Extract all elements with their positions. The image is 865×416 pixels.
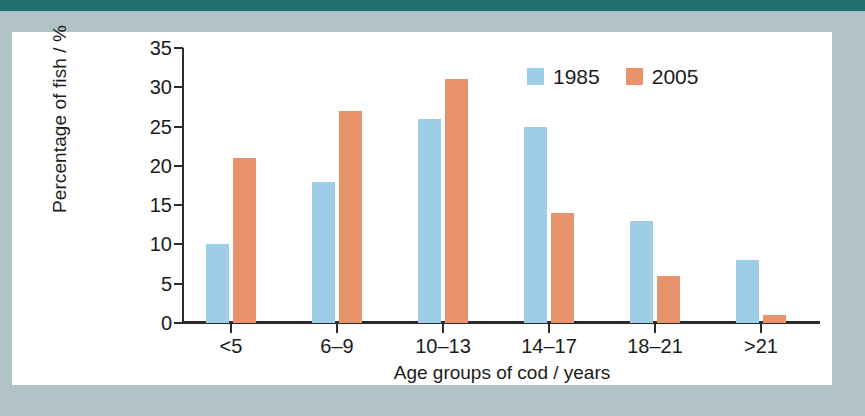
bar <box>206 244 229 323</box>
bar <box>551 213 574 323</box>
bar <box>524 127 547 323</box>
legend-entry: 2005 <box>626 66 699 87</box>
x-axis-tick-mark <box>654 324 656 333</box>
bar <box>657 276 680 323</box>
legend-entry: 1985 <box>527 66 600 87</box>
legend-color-swatch <box>527 68 544 85</box>
x-axis-tick-mark <box>230 324 232 333</box>
bar <box>763 315 786 323</box>
x-axis-tick-mark <box>760 324 762 333</box>
bar <box>445 79 468 323</box>
x-axis-tick-label: 18–21 <box>627 335 683 357</box>
y-axis-tick-label: 30 <box>128 77 172 97</box>
x-axis-tick-label: 10–13 <box>415 335 471 357</box>
bar <box>339 111 362 323</box>
bar <box>630 221 653 323</box>
x-axis-ticks <box>184 324 820 334</box>
x-axis-tick-label: 14–17 <box>521 335 577 357</box>
bar <box>312 182 335 323</box>
x-axis-tick-label: >21 <box>744 335 778 357</box>
y-axis-tick-label: 20 <box>128 156 172 176</box>
figure-page: Percentage of fish / % 05101520253035 <5… <box>0 0 865 416</box>
y-axis-tick-label: 5 <box>128 274 172 294</box>
x-axis-tick-labels: <56–910–1314–1718–21>21 <box>184 335 820 365</box>
x-axis-tick-label: 6–9 <box>320 335 353 357</box>
bars-layer <box>184 48 820 323</box>
y-axis-tick-label: 15 <box>128 195 172 215</box>
figure-card: Percentage of fish / % 05101520253035 <5… <box>12 32 832 385</box>
bar <box>418 119 441 323</box>
bar <box>736 260 759 323</box>
y-axis-tick-label: 10 <box>128 234 172 254</box>
bar-chart: Percentage of fish / % 05101520253035 <5… <box>12 32 832 385</box>
x-axis-tick-mark <box>548 324 550 333</box>
y-axis-tick-label: 0 <box>128 313 172 333</box>
top-decorative-band <box>0 0 865 11</box>
y-axis-tick-labels: 05101520253035 <box>128 32 172 385</box>
x-axis-tick-mark <box>336 324 338 333</box>
x-axis-tick-mark <box>442 324 444 333</box>
chart-legend: 19852005 <box>527 66 698 87</box>
legend-color-swatch <box>626 68 643 85</box>
y-axis-tick-label: 25 <box>128 117 172 137</box>
y-axis-title: Percentage of fish / % <box>47 9 73 229</box>
x-axis-title: Age groups of cod / years <box>184 362 820 384</box>
y-axis-tick-label: 35 <box>128 38 172 58</box>
x-axis-tick-label: <5 <box>220 335 243 357</box>
legend-label: 2005 <box>652 66 699 87</box>
legend-label: 1985 <box>553 66 600 87</box>
bar <box>233 158 256 323</box>
